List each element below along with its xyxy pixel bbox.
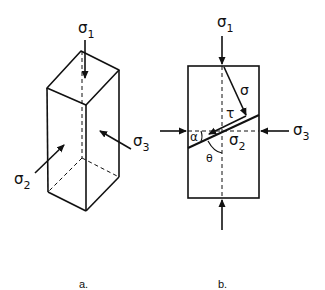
sigma2-arrow-a	[35, 145, 64, 173]
shear-stress-label: τ	[226, 105, 234, 121]
sigma1-label-a: σ1	[78, 19, 95, 41]
caption-b: b.	[218, 278, 227, 290]
normal-stress-label: σ	[240, 82, 249, 98]
sigma3-label-a: σ3	[133, 132, 150, 154]
hidden-edges	[48, 51, 119, 192]
visible-edges	[47, 51, 119, 211]
alpha-label: α	[190, 130, 198, 144]
sigma3-arrow-a	[100, 131, 131, 149]
theta-label: θ	[206, 152, 213, 165]
figure-b-section	[160, 36, 289, 230]
alpha-arc	[201, 131, 202, 141]
caption-a: a.	[79, 278, 88, 290]
sigma2-label-a: σ2	[14, 170, 31, 192]
stress-diagram: σ1 σ3 σ2 σ1 σ3 σ2 σ τ α θ a. b.	[0, 0, 325, 290]
sigma3-label-b: σ3	[293, 121, 310, 143]
figure-a-prism	[35, 40, 131, 211]
sigma2-label-b: σ2	[229, 131, 246, 153]
sigma1-label-b: σ1	[217, 13, 234, 35]
